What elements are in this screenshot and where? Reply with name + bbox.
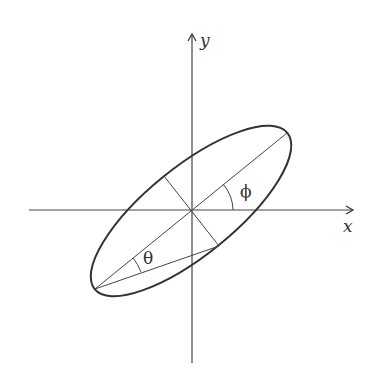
- x-axis-label: x: [343, 216, 353, 236]
- chord-line: [95, 246, 219, 289]
- ellipse-diagram: y x ϕ θ: [0, 0, 368, 378]
- theta-label: θ: [143, 248, 153, 268]
- phi-arc: [223, 184, 233, 210]
- theta-arc: [133, 258, 141, 272]
- phi-label: ϕ: [240, 181, 252, 201]
- y-axis-label: y: [199, 30, 210, 50]
